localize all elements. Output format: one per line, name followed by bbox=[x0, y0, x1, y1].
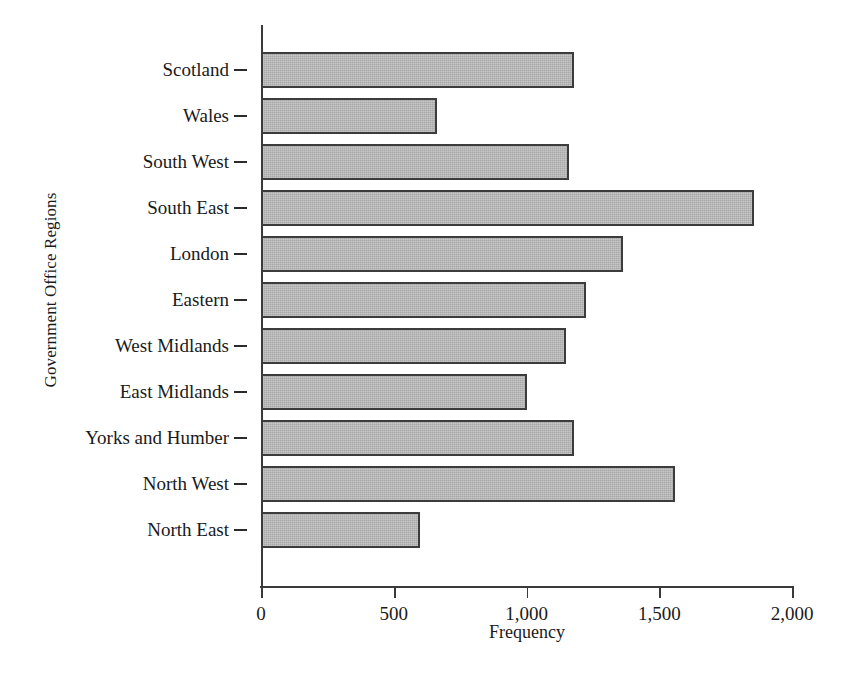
x-axis-tick-mark bbox=[394, 586, 396, 598]
y-axis-tick-label: West Midlands bbox=[115, 328, 247, 364]
bar bbox=[261, 98, 437, 134]
y-axis-tick-label: Eastern bbox=[172, 282, 247, 318]
y-axis-tick-label: London bbox=[170, 236, 247, 272]
y-axis-tick-mark bbox=[234, 529, 247, 531]
bar bbox=[261, 420, 574, 456]
y-axis-tick-label: South West bbox=[143, 144, 247, 180]
y-axis-tick-label: Scotland bbox=[163, 52, 248, 88]
y-axis-tick-mark bbox=[234, 299, 247, 301]
x-axis-tick-mark bbox=[261, 586, 263, 598]
category-label-text: South East bbox=[147, 197, 229, 218]
y-axis-tick-mark bbox=[234, 207, 247, 209]
x-axis-tick-mark bbox=[659, 586, 661, 598]
bar bbox=[261, 328, 566, 364]
category-label-text: Eastern bbox=[172, 289, 229, 310]
y-axis-tick-mark bbox=[234, 483, 247, 485]
bar bbox=[261, 466, 675, 502]
bar bbox=[261, 190, 754, 226]
bar bbox=[261, 144, 569, 180]
y-axis-tick-label: East Midlands bbox=[120, 374, 247, 410]
x-axis-title: Frequency bbox=[261, 622, 793, 643]
category-label-text: Wales bbox=[183, 105, 229, 126]
bar bbox=[261, 512, 420, 548]
y-axis-tick-label: Yorks and Humber bbox=[85, 420, 247, 456]
y-axis-tick-mark bbox=[234, 437, 247, 439]
plot-area: 05001,0001,5002,000 bbox=[261, 25, 848, 588]
y-axis-tick-label: North East bbox=[147, 512, 247, 548]
bar bbox=[261, 282, 586, 318]
bar-chart-figure: Government Office Regions ScotlandWalesS… bbox=[0, 0, 848, 688]
category-label-text: Scotland bbox=[163, 59, 230, 80]
bar bbox=[261, 236, 623, 272]
y-axis-tick-mark bbox=[234, 345, 247, 347]
category-label-text: North West bbox=[143, 473, 229, 494]
x-axis-tick-mark bbox=[792, 586, 794, 598]
category-label-text: London bbox=[170, 243, 229, 264]
y-axis-tick-mark bbox=[234, 253, 247, 255]
y-axis-tick-labels: ScotlandWalesSouth WestSouth EastLondonE… bbox=[0, 52, 247, 558]
y-axis-tick-mark bbox=[234, 391, 247, 393]
bar bbox=[261, 52, 574, 88]
y-axis-tick-label: North West bbox=[143, 466, 247, 502]
y-axis-tick-mark bbox=[234, 69, 247, 71]
y-axis-tick-mark bbox=[234, 161, 247, 163]
category-label-text: Yorks and Humber bbox=[85, 427, 229, 448]
y-axis-tick-mark bbox=[234, 115, 247, 117]
y-axis-tick-label: Wales bbox=[183, 98, 247, 134]
bar bbox=[261, 374, 527, 410]
y-axis-tick-label: South East bbox=[147, 190, 247, 226]
category-label-text: East Midlands bbox=[120, 381, 229, 402]
category-label-text: South West bbox=[143, 151, 229, 172]
category-label-text: West Midlands bbox=[115, 335, 229, 356]
x-axis-tick-mark bbox=[527, 586, 529, 598]
category-label-text: North East bbox=[147, 519, 229, 540]
